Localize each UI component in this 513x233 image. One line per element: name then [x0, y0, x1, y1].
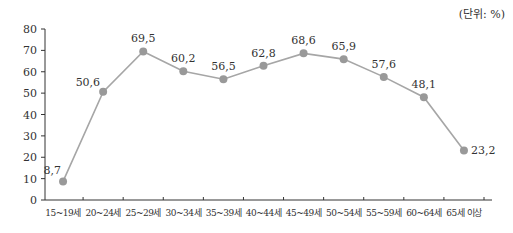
data-label: 57,6	[372, 58, 397, 71]
y-tick-label: 80	[23, 23, 37, 36]
data-label: 23,2	[471, 144, 496, 157]
data-point	[99, 88, 107, 96]
data-point	[260, 62, 268, 70]
y-axis: 01020304050607080	[23, 23, 45, 207]
data-point	[460, 146, 468, 154]
x-tick-label: 65세 이상	[446, 208, 482, 218]
data-point	[300, 49, 308, 57]
x-tick-label: 60~64세	[406, 208, 442, 218]
y-tick-label: 60	[23, 66, 37, 79]
data-point	[59, 177, 67, 185]
x-tick-label: 40~44세	[246, 208, 282, 218]
x-axis: 15~19세20~24세25~29세30~34세35~39세40~44세45~4…	[45, 197, 492, 218]
x-tick-label: 35~39세	[206, 208, 242, 218]
chart-canvas: (단위: %) 01020304050607080 15~19세20~24세25…	[0, 0, 513, 233]
data-label: 65,9	[331, 40, 356, 53]
data-point	[420, 93, 428, 101]
data-label: 62,8	[251, 47, 276, 60]
data-label: 48,1	[412, 78, 437, 91]
y-tick-label: 30	[23, 130, 37, 143]
line-chart: (단위: %) 01020304050607080 15~19세20~24세25…	[0, 0, 513, 233]
data-label: 56,5	[211, 60, 236, 73]
unit-label: (단위: %)	[459, 8, 505, 21]
y-tick-label: 20	[23, 151, 37, 164]
data-label: 50,6	[76, 76, 101, 89]
series-line	[63, 51, 464, 181]
y-tick-label: 70	[23, 44, 37, 57]
y-tick-label: 0	[30, 194, 37, 207]
data-point	[380, 73, 388, 81]
y-tick-label: 50	[23, 87, 37, 100]
y-tick-label: 40	[23, 109, 37, 122]
data-point	[179, 67, 187, 75]
data-point	[340, 55, 348, 63]
data-label: 68,6	[291, 34, 316, 47]
data-label: 8,7	[44, 164, 62, 177]
x-tick-label: 15~19세	[45, 208, 81, 218]
data-point	[139, 47, 147, 55]
data-label: 69,5	[131, 32, 156, 45]
x-tick-label: 45~49세	[286, 208, 322, 218]
data-label: 60,2	[171, 52, 196, 65]
x-tick-label: 55~59세	[366, 208, 402, 218]
data-series: 8,750,669,560,256,562,868,665,957,648,12…	[44, 32, 496, 185]
x-tick-label: 25~29세	[126, 208, 162, 218]
x-tick-label: 30~34세	[166, 208, 202, 218]
data-point	[219, 75, 227, 83]
x-tick-label: 20~24세	[85, 208, 121, 218]
y-tick-label: 10	[23, 173, 37, 186]
x-tick-label: 50~54세	[326, 208, 362, 218]
